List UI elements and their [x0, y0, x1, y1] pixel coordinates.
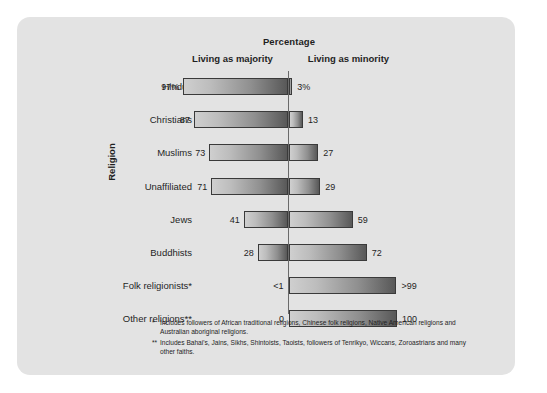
category-label: Folk religionists*: [40, 277, 192, 295]
bar-minority: [289, 244, 367, 261]
value-minority: 13: [308, 111, 368, 129]
value-majority: 28: [194, 244, 254, 262]
bar-majority: [209, 144, 288, 161]
value-majority: 41: [180, 211, 240, 229]
bar-majority: [244, 211, 288, 228]
value-majority: 97%: [119, 78, 179, 96]
value-minority: 72: [372, 244, 432, 262]
value-majority: <1: [223, 277, 283, 295]
bar-majority: [211, 178, 288, 195]
chart-row: Hindus97%3%: [0, 78, 547, 96]
footnote-text: Includes Bahai's, Jains, Sikhs, Shintois…: [160, 339, 466, 355]
value-minority: 59: [358, 211, 418, 229]
bar-minority: [289, 211, 353, 228]
category-label: Buddhists: [40, 244, 192, 262]
value-majority: 71: [147, 178, 207, 196]
chart-row: Folk religionists*<1>99: [0, 277, 547, 295]
category-label: Jews: [40, 211, 192, 229]
footnotes: *Includes followers of African tradition…: [152, 318, 472, 358]
value-minority: 3%: [297, 78, 357, 96]
value-minority: 27: [323, 144, 383, 162]
chart-row: Unaffiliated7129: [0, 178, 547, 196]
bar-majority: [258, 244, 288, 261]
footnote-marker: *: [152, 318, 155, 327]
footnote: **Includes Bahai's, Jains, Sikhs, Shinto…: [152, 338, 472, 357]
value-minority: >99: [401, 277, 461, 295]
bar-minority: [289, 78, 292, 95]
bar-majority: [194, 111, 288, 128]
bar-minority: [289, 178, 320, 195]
bar-minority: [289, 277, 396, 294]
footnote-marker: **: [152, 338, 157, 347]
bar-majority: [183, 78, 288, 95]
chart-row: Muslims7327: [0, 144, 547, 162]
chart-row: Jews4159: [0, 211, 547, 229]
footnote: *Includes followers of African tradition…: [152, 318, 472, 337]
bar-minority: [289, 144, 318, 161]
value-majority: 87: [130, 111, 190, 129]
chart-row: Buddhists2872: [0, 244, 547, 262]
footnote-text: Includes followers of African traditiona…: [160, 319, 456, 335]
bar-minority: [289, 111, 303, 128]
value-majority: 73: [145, 144, 205, 162]
value-minority: 29: [325, 178, 385, 196]
chart-row: Christians8713: [0, 111, 547, 129]
